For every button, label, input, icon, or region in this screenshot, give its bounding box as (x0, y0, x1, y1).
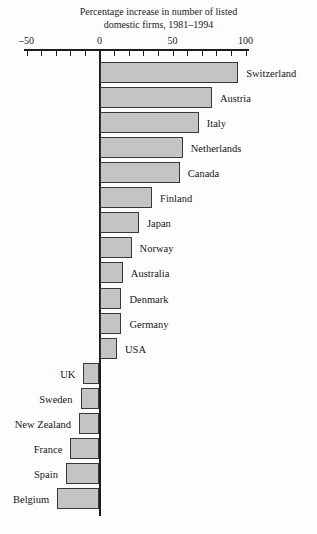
axis-tick-label: –50 (19, 35, 34, 46)
bar-label: Switzerland (246, 67, 296, 78)
plot-area: –50050100SwitzerlandAustriaItalyNetherla… (0, 0, 317, 534)
axis-tick (114, 51, 115, 56)
bar (81, 388, 100, 409)
bar-label: France (34, 443, 63, 454)
axis-tick (187, 51, 188, 56)
x-axis-line (24, 49, 249, 51)
bar-label: Spain (34, 468, 58, 479)
bar-label: Japan (147, 217, 171, 228)
bar (79, 413, 99, 434)
bar (100, 87, 212, 108)
bar (100, 112, 199, 133)
bar (100, 137, 183, 158)
axis-tick (216, 51, 217, 56)
axis-tick (246, 51, 247, 56)
bar-label: Netherlands (191, 142, 242, 153)
bar (100, 313, 122, 334)
bar-label: USA (125, 343, 146, 354)
bar-label: Belgium (13, 493, 49, 504)
bar-label: UK (60, 368, 75, 379)
axis-tick (143, 51, 144, 56)
bar-label: Sweden (39, 393, 72, 404)
axis-tick-label: 50 (168, 35, 178, 46)
bar-label: Norway (140, 242, 174, 253)
bar-label: Italy (207, 117, 226, 128)
bar (100, 212, 139, 233)
bar (100, 288, 122, 309)
axis-tick (70, 51, 71, 56)
bar-label: Finland (160, 192, 192, 203)
axis-tick (158, 51, 159, 56)
axis-tick (202, 51, 203, 56)
axis-tick (27, 51, 28, 56)
bar-label: Australia (131, 267, 170, 278)
bar (100, 187, 153, 208)
bar (100, 237, 132, 258)
axis-tick (231, 51, 232, 56)
axis-tick (56, 51, 57, 56)
chart-figure: Percentage increase in number of listed … (0, 0, 317, 534)
bar-label: New Zealand (15, 418, 71, 429)
bar-label: Germany (129, 318, 168, 329)
bar (66, 463, 100, 484)
bar (100, 162, 180, 183)
bar-label: Denmark (129, 293, 168, 304)
axis-tick (41, 51, 42, 56)
bar (83, 363, 99, 384)
axis-tick (129, 51, 130, 56)
bar (100, 62, 239, 83)
bar (57, 488, 99, 509)
axis-tick (85, 51, 86, 56)
bar (100, 262, 123, 283)
axis-tick-label: 100 (238, 35, 253, 46)
bar-label: Canada (188, 167, 220, 178)
bar (100, 338, 118, 359)
axis-tick (173, 51, 174, 56)
axis-tick-label: 0 (97, 35, 102, 46)
bar-label: Austria (220, 92, 251, 103)
bar (70, 438, 99, 459)
